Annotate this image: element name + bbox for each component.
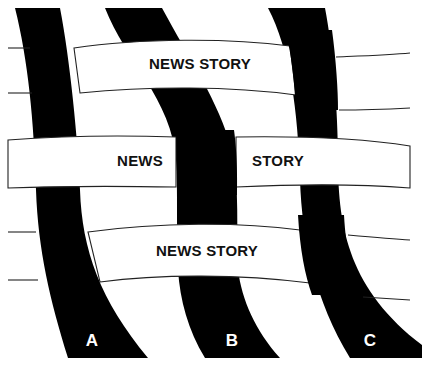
- ribbon-b-label: B: [226, 331, 238, 350]
- band-middle-right-label: STORY: [252, 152, 304, 169]
- ribbon-a-label: A: [86, 331, 98, 350]
- band-bottom-label: NEWS STORY: [156, 242, 258, 259]
- ribbon-b-over-middle: [176, 130, 237, 195]
- ribbon-c-label: C: [364, 331, 376, 350]
- ribbon-c-over-top: [285, 30, 338, 110]
- news-story-weave-diagram: NEWS STORY NEWS STORY NEWS STORY A B C: [0, 0, 422, 366]
- band-top-label: NEWS STORY: [149, 55, 251, 72]
- band-middle-left-label: NEWS: [117, 152, 163, 169]
